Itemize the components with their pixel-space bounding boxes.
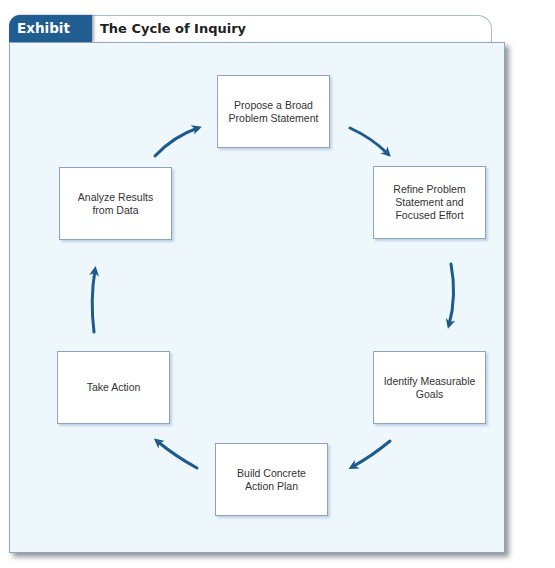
arrow-analyze-to-propose-icon [155, 128, 198, 156]
arrow-take-action-to-analyze-icon [92, 270, 95, 332]
arrow-identify-to-build-icon [352, 441, 390, 467]
arrow-build-to-take-action-icon [157, 441, 197, 468]
arrow-refine-to-identify-icon [449, 264, 454, 325]
arrow-propose-to-refine-icon [350, 128, 388, 154]
cycle-arrows [0, 0, 555, 568]
